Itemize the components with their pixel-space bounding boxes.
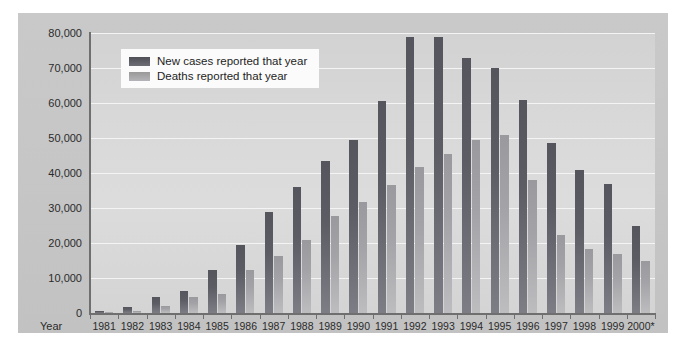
bar-new-cases-1986	[236, 245, 245, 313]
bar-deaths-1990	[359, 202, 368, 313]
bar-deaths-1992	[415, 167, 424, 313]
bar-new-cases-1985	[208, 270, 217, 313]
legend-label-deaths: Deaths reported that year	[157, 70, 287, 82]
x-tick-label: 1984	[177, 320, 200, 332]
x-tick-label: 1985	[205, 320, 228, 332]
x-tick	[316, 313, 317, 319]
bar-new-cases-1988	[293, 187, 302, 313]
x-tick	[401, 313, 402, 319]
bar-deaths-1986	[246, 270, 255, 313]
bar-deaths-1994	[472, 140, 481, 313]
y-tick-label: 60,000	[18, 97, 82, 109]
bar-new-cases-1994	[462, 58, 471, 314]
x-tick-label: 2000*	[627, 320, 654, 332]
bar-deaths-1989	[331, 216, 340, 313]
bar-deaths-1998	[585, 249, 594, 313]
bar-deaths-1995	[500, 135, 509, 314]
y-tick-label: 40,000	[18, 167, 82, 179]
bar-new-cases-1991	[378, 101, 387, 313]
bar-deaths-1996	[528, 180, 537, 313]
bar-new-cases-1984	[180, 291, 189, 313]
chart-figure: 010,00020,00030,00040,00050,00060,00070,…	[18, 13, 668, 333]
x-tick-label: 1993	[431, 320, 454, 332]
x-tick-label: 1983	[149, 320, 172, 332]
bar-new-cases-1993	[434, 37, 443, 314]
x-tick-label: 1998	[573, 320, 596, 332]
y-axis-labels: 010,00020,00030,00040,00050,00060,00070,…	[18, 13, 84, 333]
x-tick-label: 1987	[262, 320, 285, 332]
x-tick	[655, 313, 656, 319]
x-tick-label: 1995	[488, 320, 511, 332]
x-tick	[288, 313, 289, 319]
x-tick	[175, 313, 176, 319]
x-tick	[147, 313, 148, 319]
chart-legend: New cases reported that year Deaths repo…	[121, 49, 319, 88]
bar-deaths-1988	[302, 240, 311, 314]
bar-deaths-1983	[161, 306, 170, 313]
bar-deaths-1987	[274, 256, 283, 313]
x-tick-label: 1994	[460, 320, 483, 332]
legend-swatch-new-cases	[129, 57, 150, 66]
y-tick-label: 80,000	[18, 27, 82, 39]
y-tick-label: 20,000	[18, 237, 82, 249]
x-tick	[627, 313, 628, 319]
y-tick-label: 70,000	[18, 62, 82, 74]
y-tick-label: 0	[18, 307, 82, 319]
y-tick-label: 50,000	[18, 132, 82, 144]
x-tick-label: 1988	[290, 320, 313, 332]
x-tick	[118, 313, 119, 319]
y-tick-label: 30,000	[18, 202, 82, 214]
bar-deaths-1984	[189, 297, 198, 313]
x-tick	[344, 313, 345, 319]
x-tick	[486, 313, 487, 319]
x-axis-caption: Year	[40, 320, 62, 332]
x-tick-label: 1990	[347, 320, 370, 332]
legend-swatch-deaths	[129, 72, 150, 81]
bar-new-cases-1987	[265, 212, 274, 314]
x-tick-label: 1986	[234, 320, 257, 332]
y-axis-line	[89, 32, 91, 314]
x-tick	[231, 313, 232, 319]
x-tick	[542, 313, 543, 319]
x-tick	[260, 313, 261, 319]
bar-deaths-2000	[641, 261, 650, 314]
bar-new-cases-1990	[349, 140, 358, 313]
x-tick-label: 1992	[403, 320, 426, 332]
bar-new-cases-2000	[632, 226, 641, 313]
x-tick-label: 1982	[121, 320, 144, 332]
x-tick	[570, 313, 571, 319]
legend-item-new-cases: New cases reported that year	[129, 55, 307, 67]
legend-label-new-cases: New cases reported that year	[157, 55, 307, 67]
bar-new-cases-1999	[604, 184, 613, 314]
x-tick-label: 1999	[601, 320, 624, 332]
x-tick	[373, 313, 374, 319]
x-tick	[514, 313, 515, 319]
bar-new-cases-1992	[406, 37, 415, 313]
x-tick	[90, 313, 91, 319]
x-tick	[599, 313, 600, 319]
bar-new-cases-1995	[491, 68, 500, 313]
x-tick	[429, 313, 430, 319]
bar-new-cases-1983	[152, 297, 161, 313]
bar-new-cases-1997	[547, 143, 556, 313]
x-tick-label: 1997	[544, 320, 567, 332]
x-tick-label: 1981	[92, 320, 115, 332]
x-tick	[457, 313, 458, 319]
x-tick-label: 1996	[516, 320, 539, 332]
legend-item-deaths: Deaths reported that year	[129, 70, 307, 82]
x-tick-label: 1991	[375, 320, 398, 332]
x-tick	[203, 313, 204, 319]
bar-deaths-1999	[613, 254, 622, 313]
bar-deaths-1997	[557, 235, 566, 313]
bar-deaths-1993	[444, 154, 453, 313]
y-tick-label: 10,000	[18, 272, 82, 284]
bar-new-cases-1996	[519, 100, 528, 313]
x-axis-labels: 1981198219831984198519861987198819891990…	[90, 320, 655, 338]
bar-deaths-1991	[387, 185, 396, 313]
x-tick-label: 1989	[318, 320, 341, 332]
bar-deaths-1985	[218, 294, 227, 313]
bar-new-cases-1989	[321, 161, 330, 313]
bar-new-cases-1998	[575, 170, 584, 314]
